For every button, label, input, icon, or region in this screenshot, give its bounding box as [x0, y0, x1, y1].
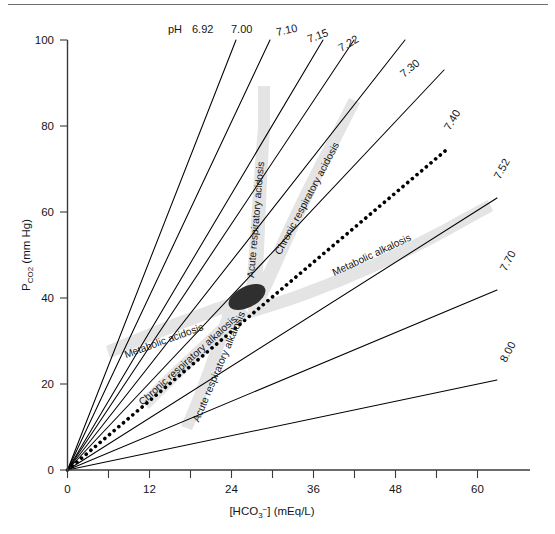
ph-label-7.22: 7.22 — [336, 33, 361, 54]
svg-text:PCO2 (mm Hg): PCO2 (mm Hg) — [20, 219, 35, 291]
y-tick-label: 40 — [41, 292, 54, 304]
y-tick-label: 60 — [41, 206, 54, 218]
ph-label-prefix: pH — [168, 23, 182, 35]
x-axis-title: [HCO3−] (mEq/L) — [229, 505, 314, 520]
ph-label-7.30: 7.30 — [398, 57, 422, 80]
acid-base-nomogram-figure: 0 20 40 60 80 100 0 12 24 36 48 60 PCO2 … — [0, 0, 555, 534]
ph-label-7.00: 7.00 — [231, 23, 252, 35]
ph-line-8.00 — [68, 380, 498, 470]
x-axis-title-tail: ] (mEq/L) — [267, 505, 314, 517]
y-axis-ticks — [60, 40, 68, 470]
x-tick-label: 24 — [225, 483, 238, 495]
x-tick-label: 60 — [471, 483, 484, 495]
ph-label-7.15: 7.15 — [306, 26, 330, 45]
ph-label-7.70: 7.70 — [497, 248, 518, 273]
y-tick-label: 80 — [41, 120, 54, 132]
ph-label-8.00: 8.00 — [497, 339, 518, 364]
x-tick-label: 0 — [64, 483, 70, 495]
band-label-chronic-respiratory-acidosis: Chronic respiratory acidosis — [273, 140, 342, 256]
x-axis-title-main: [HCO — [229, 505, 258, 517]
ph-label-7.40: 7.40 — [441, 107, 462, 132]
ph-line-7.70 — [68, 290, 498, 470]
x-axis-ticks — [68, 470, 478, 478]
y-axis-title-tail: (mm Hg) — [20, 219, 32, 267]
ph-label-7.10: 7.10 — [275, 22, 298, 38]
axes-group — [60, 40, 530, 478]
nomogram-svg: 0 20 40 60 80 100 0 12 24 36 48 60 PCO2 … — [0, 0, 555, 534]
x-tick-label: 36 — [307, 483, 320, 495]
y-axis-title: PCO2 (mm Hg) — [20, 219, 35, 291]
ph-label-7.52: 7.52 — [491, 156, 512, 181]
ph-label-6.92: 6.92 — [192, 23, 213, 35]
x-tick-label: 12 — [143, 483, 156, 495]
svg-text:[HCO3−] (mEq/L): [HCO3−] (mEq/L) — [229, 505, 314, 520]
y-tick-label: 20 — [41, 378, 54, 390]
y-tick-labels: 0 20 40 60 80 100 — [35, 34, 54, 476]
x-tick-labels: 0 12 24 36 48 60 — [64, 483, 484, 495]
y-tick-label: 0 — [48, 464, 54, 476]
x-tick-label: 48 — [389, 483, 402, 495]
y-tick-label: 100 — [35, 34, 54, 46]
ph-line-7.22 — [68, 40, 406, 470]
y-axis-title-sub: CO2 — [26, 266, 35, 283]
